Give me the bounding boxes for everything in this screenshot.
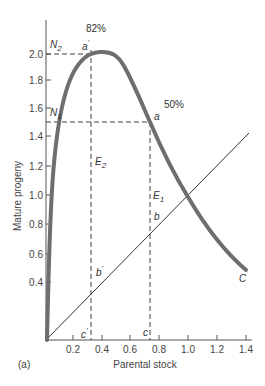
a-prime-label: a' [82,38,90,52]
stock-recruitment-chart: 2.0 1.8 1.6 1.4 1.2 1.0 0.8 0.6 0.4 0.2 … [0,0,265,386]
svg-text:0.6: 0.6 [123,344,137,355]
a-label: a [154,111,160,122]
y-tick-labels: 2.0 1.8 1.6 1.4 1.2 1.0 0.8 0.6 0.4 [29,49,43,288]
reproduction-curve [47,52,246,340]
svg-text:1.0: 1.0 [29,190,43,201]
svg-text:1.8: 1.8 [29,75,43,86]
svg-text:1.2: 1.2 [29,161,43,172]
svg-text:0.8: 0.8 [29,219,43,230]
svg-text:0.8: 0.8 [152,344,166,355]
svg-text:0.6: 0.6 [29,249,43,260]
x-axis-title: Parental stock [113,359,177,370]
svg-text:1.4: 1.4 [239,344,253,355]
c-prime-label: c' [81,326,88,340]
e1-label: E1 [153,190,164,204]
e2-label: E2 [95,156,107,170]
n2-label: N2 [50,39,62,53]
b-label: b [154,211,160,222]
x-ticks [73,335,246,340]
curve-end-label: C [239,273,247,284]
svg-text:1.6: 1.6 [29,103,43,114]
svg-text:0.2: 0.2 [66,344,80,355]
c-label: c [143,327,148,338]
reference-lines [46,50,150,340]
svg-text:1.0: 1.0 [181,344,195,355]
svg-text:0.4: 0.4 [29,277,43,288]
replacement-line [46,133,249,340]
x-tick-labels: 0.2 0.4 0.6 0.8 1.0 1.2 1.4 [66,344,253,355]
svg-text:1.2: 1.2 [210,344,224,355]
svg-text:0.4: 0.4 [95,344,109,355]
svg-text:1.4: 1.4 [29,131,43,142]
y-axis-title: Mature progeny [12,161,23,231]
b-prime-label: b' [96,264,104,278]
panel-label: (a) [18,359,30,370]
pct-82-label: 82% [86,23,106,34]
svg-text:2.0: 2.0 [29,49,43,60]
pct-50-label: 50% [164,99,184,110]
